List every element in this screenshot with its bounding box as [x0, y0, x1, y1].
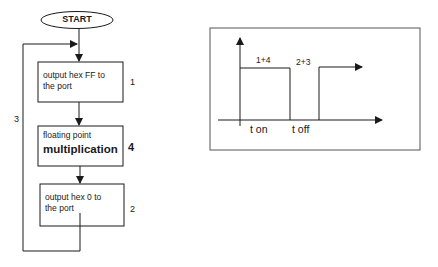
box-2-text: output hex 0 to the port — [45, 192, 101, 214]
box-4-line-1: floating point — [43, 130, 118, 141]
timing-frame — [210, 28, 420, 150]
t-off-label: t off — [292, 123, 309, 135]
pulse-high-label: 1+4 — [256, 55, 270, 65]
box-2-line-1: output hex 0 to — [45, 192, 101, 203]
step-label-4: 4 — [128, 141, 134, 153]
box-1-text: output hex FF to the port — [43, 70, 105, 92]
box-4-text: floating point multiplication — [43, 130, 118, 157]
pulse-low-label: 2+3 — [296, 57, 310, 67]
box-4-line-2: multiplication — [43, 141, 118, 157]
pulse-waveform-2 — [319, 67, 362, 120]
step-label-2: 2 — [130, 204, 135, 214]
timing-diagram — [210, 28, 420, 150]
box-1-line-1: output hex FF to — [43, 70, 105, 81]
box-1-line-2: the port — [43, 81, 105, 92]
start-label: START — [47, 14, 107, 24]
t-on-label: t on — [250, 123, 268, 135]
pulse-waveform-1 — [240, 68, 290, 120]
step-label-1: 1 — [130, 77, 135, 87]
box-2-line-2: the port — [45, 203, 101, 214]
loop-label-3: 3 — [14, 114, 19, 124]
